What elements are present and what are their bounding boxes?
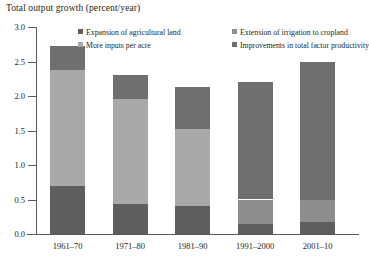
bar-1991–2000[interactable] <box>238 27 273 234</box>
legend-label: Extension of irrigation to cropland <box>240 28 348 37</box>
bar-segment[interactable] <box>113 99 148 204</box>
bar-2001–10[interactable] <box>300 27 335 234</box>
bar-segment[interactable] <box>50 70 85 185</box>
y-tick-label: 0.5 <box>0 196 25 205</box>
legend-label: Improvements in total factor productivit… <box>240 41 369 50</box>
y-tick-mark <box>28 165 36 166</box>
y-tick-mark <box>28 96 36 97</box>
chart-title: Total output growth (percent/year) <box>6 2 140 14</box>
y-tick-mark <box>28 234 36 235</box>
bar-segment[interactable] <box>113 204 148 234</box>
x-tick-label: 1961–70 <box>33 241 103 251</box>
y-tick-label: 0.0 <box>0 230 25 239</box>
legend-swatch-icon <box>232 42 237 47</box>
bar-segment[interactable] <box>300 222 335 234</box>
x-tick-label: 2001–10 <box>283 241 353 251</box>
x-tick-label: 1971–80 <box>95 241 165 251</box>
bar-segment[interactable] <box>300 200 335 222</box>
legend-swatch-icon <box>232 29 237 34</box>
bar-1981–90[interactable] <box>175 27 210 234</box>
y-tick-mark <box>28 200 36 201</box>
legend-swatch-icon <box>78 42 83 47</box>
legend-label: Expansion of agricultural land <box>86 28 181 37</box>
bar-segment[interactable] <box>175 87 210 129</box>
bar-segment[interactable] <box>238 82 273 200</box>
y-tick-label: 2.0 <box>0 92 25 101</box>
bar-1971–80[interactable] <box>113 27 148 234</box>
legend-item-more-inputs-per-acre: More inputs per acre <box>78 41 151 50</box>
x-tick-label: 1991–2000 <box>220 241 290 251</box>
legend-item-extension-of-irrigation-to-cropland: Extension of irrigation to cropland <box>232 28 348 37</box>
y-tick-label: 1.0 <box>0 161 25 170</box>
bar-segment[interactable] <box>113 75 148 99</box>
legend-label: More inputs per acre <box>86 41 151 50</box>
bar-segment[interactable] <box>175 129 210 206</box>
y-tick-label: 2.5 <box>0 58 25 67</box>
y-tick-label: 3.0 <box>0 23 25 32</box>
chart-legend: Expansion of agricultural land More inpu… <box>78 28 360 52</box>
y-tick-mark <box>28 27 36 28</box>
bar-segment[interactable] <box>50 186 85 234</box>
x-tick-label: 1981–90 <box>158 241 228 251</box>
bar-1961–70[interactable] <box>50 27 85 234</box>
bar-segment[interactable] <box>175 206 210 234</box>
bar-segment[interactable] <box>238 200 273 224</box>
legend-swatch-icon <box>78 29 83 34</box>
x-axis-line <box>27 234 359 235</box>
bar-segment[interactable] <box>300 62 335 200</box>
y-tick-mark <box>28 131 36 132</box>
y-axis-line <box>36 27 37 235</box>
legend-item-improvements-in-total-factor-productivity: Improvements in total factor productivit… <box>232 41 369 50</box>
bar-segment[interactable] <box>238 224 273 234</box>
y-tick-mark <box>28 62 36 63</box>
legend-item-expansion-of-agricultural-land: Expansion of agricultural land <box>78 28 181 37</box>
y-tick-label: 1.5 <box>0 127 25 136</box>
